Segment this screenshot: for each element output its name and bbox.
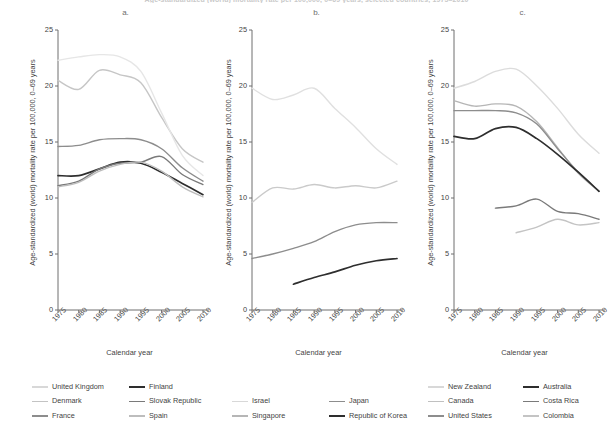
figure-root: Age-standardized (world) mortality rate … (0, 0, 613, 424)
legend-label: United States (448, 412, 492, 421)
axis-lines (454, 30, 605, 310)
legend-item[interactable]: Republic of Korea (329, 412, 422, 421)
y-tick-label: 25 (31, 25, 53, 34)
legend-swatch-icon (32, 415, 48, 417)
legend-swatch-icon (329, 415, 345, 417)
legend-swatch-icon (428, 386, 444, 388)
y-tick-label: 15 (427, 137, 449, 146)
legend-swatch-icon (523, 386, 539, 388)
x-axis-label-c: Calendar year (418, 348, 613, 357)
legend-swatch-icon (32, 386, 48, 388)
panel-c: c. Age-standardized (world) mortality ra… (400, 8, 613, 358)
legend-swatch-icon (129, 401, 145, 403)
series-line (252, 88, 397, 165)
legend-label: New Zealand (448, 383, 491, 392)
y-tick-label: 20 (225, 81, 247, 90)
legend-item[interactable]: Israel (232, 397, 325, 406)
panel-a: a. Age-standardized (world) mortality ra… (0, 8, 215, 358)
legend-item[interactable]: Slovak Republic (129, 397, 222, 406)
legend-grid-c: New ZealandAustraliaCanadaCosta RicaUnit… (428, 383, 613, 421)
legend-item[interactable]: Colombia (523, 412, 613, 421)
legend-panel-c: New ZealandAustraliaCanadaCosta RicaUnit… (428, 383, 613, 421)
figure-title: Age-standardized (world) mortality rate … (0, 0, 613, 3)
series-line (454, 101, 599, 192)
legend-swatch-icon (129, 386, 145, 388)
legend-label: United Kingdom (52, 383, 104, 392)
legend-swatch-icon (428, 415, 444, 417)
legend-label: Finland (149, 383, 173, 392)
y-tick-label: 20 (427, 81, 449, 90)
legend-item[interactable]: Japan (329, 397, 422, 406)
legend-label: Colombia (543, 412, 574, 421)
y-tick-label: 10 (31, 193, 53, 202)
y-tick-label: 0 (427, 305, 449, 314)
legend-grid-b: IsraelJapanSingaporeRepublic of Korea (232, 397, 422, 420)
legend-swatch-icon (329, 401, 345, 403)
legend-label: Singapore (252, 412, 285, 421)
legend-swatch-icon (232, 415, 248, 417)
legend-item[interactable]: United Kingdom (32, 383, 125, 392)
series-line (516, 219, 599, 232)
panel-label-c: c. (416, 8, 613, 17)
legend-label: Japan (349, 397, 369, 406)
legend-swatch-icon (32, 401, 48, 403)
series-line (293, 258, 397, 284)
legend-label: Denmark (52, 397, 82, 406)
legend-swatch-icon (523, 415, 539, 417)
x-axis-label-b: Calendar year (216, 348, 421, 357)
y-tick-label: 0 (31, 305, 53, 314)
legend-item[interactable]: Australia (523, 383, 613, 392)
series-line (252, 222, 397, 258)
y-tick-label: 10 (225, 193, 247, 202)
y-tick-label: 20 (31, 81, 53, 90)
series-line (58, 55, 203, 176)
legend-label: Australia (543, 383, 571, 392)
legend-item[interactable]: Spain (129, 412, 222, 421)
plot-area-b: 0510152025197519801985199019952000200520… (252, 30, 397, 310)
axis-lines (252, 30, 403, 310)
y-tick-label: 25 (225, 25, 247, 34)
legend-swatch-icon (428, 401, 444, 403)
panel-b: b. Age-standardized (world) mortality ra… (200, 8, 405, 358)
y-tick-label: 10 (427, 193, 449, 202)
legend-item[interactable]: Denmark (32, 397, 125, 406)
legend-swatch-icon (523, 401, 539, 403)
series-line (252, 181, 397, 202)
chart-canvas (454, 30, 613, 324)
legend-label: Republic of Korea (349, 412, 407, 421)
y-tick-label: 5 (427, 249, 449, 258)
legend-swatch-icon (232, 401, 248, 403)
series-line (495, 199, 599, 219)
series-line (58, 70, 203, 163)
y-tick-label: 15 (31, 137, 53, 146)
legend-panel-a: United KingdomFinlandDenmarkSlovak Repub… (32, 383, 222, 421)
legend-grid-a: United KingdomFinlandDenmarkSlovak Repub… (32, 383, 222, 421)
legend-item[interactable]: Canada (428, 397, 519, 406)
legend-label: Spain (149, 412, 168, 421)
y-tick-label: 5 (31, 249, 53, 258)
legend-label: Canada (448, 397, 474, 406)
y-tick-label: 25 (427, 25, 449, 34)
legend-label: Slovak Republic (149, 397, 201, 406)
y-tick-label: 5 (225, 249, 247, 258)
legend-item[interactable]: New Zealand (428, 383, 519, 392)
plot-area-c: 0510152025197519801985199019952000200520… (454, 30, 599, 310)
legend-item[interactable]: Costa Rica (523, 397, 613, 406)
legend-item[interactable]: Singapore (232, 412, 325, 421)
legend-item[interactable]: United States (428, 412, 519, 421)
y-tick-label: 0 (225, 305, 247, 314)
legend-item[interactable]: France (32, 412, 125, 421)
legend-label: Israel (252, 397, 270, 406)
legend-label: Costa Rica (543, 397, 579, 406)
series-line (454, 110, 599, 191)
legend-item[interactable]: Finland (129, 383, 222, 392)
series-line (454, 127, 599, 192)
legend-swatch-icon (129, 415, 145, 417)
panel-label-b: b. (214, 8, 419, 17)
legend-label: France (52, 412, 75, 421)
plot-area-a: 0510152025197519801985199019952000200520… (58, 30, 203, 310)
y-tick-label: 15 (225, 137, 247, 146)
legend-panel-b: IsraelJapanSingaporeRepublic of Korea (232, 397, 422, 420)
